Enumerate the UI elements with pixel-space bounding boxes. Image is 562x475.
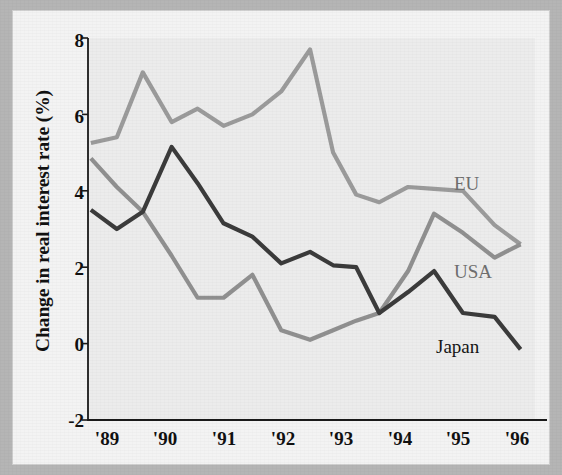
line-chart-figure: Change in real interest rate (%) 8 6 4 2… <box>12 10 550 465</box>
series-label-japan: Japan <box>436 337 479 356</box>
chart-paper: Change in real interest rate (%) 8 6 4 2… <box>12 10 550 465</box>
series-label-eu: EU <box>454 174 479 193</box>
screenshot-page: Change in real interest rate (%) 8 6 4 2… <box>0 0 562 475</box>
chart-plot-area <box>12 10 550 465</box>
series-label-usa: USA <box>454 262 492 281</box>
